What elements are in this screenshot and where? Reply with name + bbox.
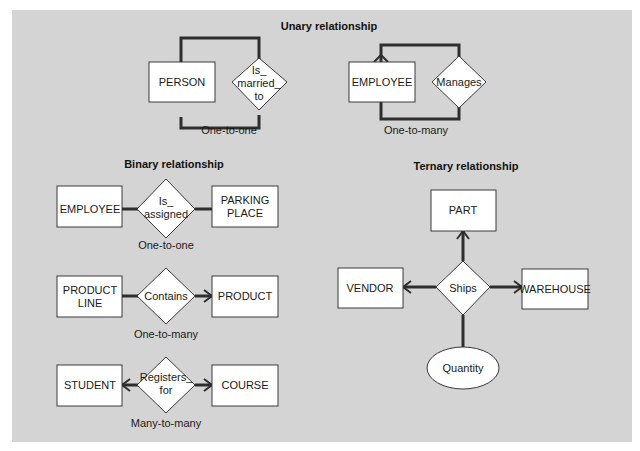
rel-label: Ships	[449, 282, 477, 294]
unary-title: Unary relationship	[281, 20, 378, 32]
cardinality-label: One-to-one	[138, 239, 194, 251]
cardinality-label: Many-to-many	[131, 417, 202, 429]
rel-label: Contains	[144, 290, 188, 302]
entity-label: EMPLOYEE	[60, 203, 121, 215]
entity-label-line2: LINE	[78, 297, 102, 309]
entity-label: WAREHOUSE	[519, 283, 591, 295]
entity-label: PRODUCT	[218, 290, 273, 302]
binary-row-1: EMPLOYEE Is_ assigned PARKING PLACE One-…	[57, 179, 278, 251]
cardinality-label: One-to-many	[134, 328, 199, 340]
ternary-group: Ternary relationship PART VENDOR WAREHOU…	[338, 160, 591, 389]
cardinality-label: One-to-many	[384, 124, 449, 136]
entity-person-label: PERSON	[159, 76, 206, 88]
recursive-line-bottom	[381, 102, 459, 119]
entity-label: STUDENT	[64, 379, 116, 391]
unary-person-group: PERSON Is_ married_ to One-to-one	[149, 38, 287, 136]
rel-label-line1: Is_	[159, 195, 175, 207]
entity-label-line2: PLACE	[227, 207, 263, 219]
attribute-label: Quantity	[443, 362, 484, 374]
rel-label-line2: for	[160, 384, 173, 396]
binary-row-3: STUDENT Registers_ for COURSE Many-to-ma…	[57, 357, 278, 429]
rel-label: Manages	[436, 76, 482, 88]
rel-label-line3: to	[254, 90, 263, 102]
entity-label: VENDOR	[346, 282, 393, 294]
binary-row-2: PRODUCT LINE Contains PRODUCT One-to-man…	[57, 268, 278, 340]
entity-label-line1: PARKING	[221, 194, 270, 206]
entity-employee-label: EMPLOYEE	[352, 76, 413, 88]
entity-label-line1: PRODUCT	[63, 284, 118, 296]
er-diagram: PERSON Is_ married_ to One-to-one EMPLOY…	[0, 0, 640, 451]
rel-label-line2: assigned	[144, 208, 188, 220]
ternary-title: Ternary relationship	[414, 160, 519, 172]
rel-label-line1: Is_	[252, 64, 268, 76]
binary-title: Binary relationship	[124, 158, 224, 170]
unary-employee-group: EMPLOYEE Manages One-to-many	[349, 45, 486, 136]
cardinality-label: One-to-one	[201, 124, 257, 136]
recursive-line-top	[381, 45, 459, 62]
entity-label: COURSE	[221, 379, 268, 391]
entity-label: PART	[449, 204, 478, 216]
rel-label-line2: married_	[237, 77, 281, 89]
rel-label-line1: Registers_	[140, 371, 193, 383]
